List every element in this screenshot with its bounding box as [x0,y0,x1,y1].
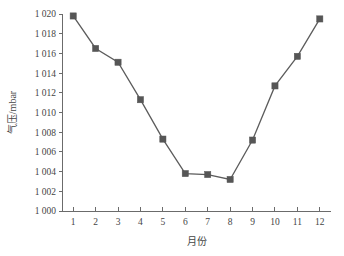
x-axis-tick-label: 12 [315,217,325,227]
x-axis-tick-label: 6 [183,217,188,227]
data-point-marker [160,136,166,142]
y-axis-tick-label: 1 014 [35,69,57,79]
y-axis-tick-label: 1 002 [35,187,57,197]
pressure-by-month-chart: 1 0001 0021 0041 0061 0081 0101 0121 014… [0,0,344,256]
data-point-marker [272,83,278,89]
data-point-marker [227,176,233,182]
chart-canvas: 1 0001 0021 0041 0061 0081 0101 0121 014… [0,0,344,256]
data-point-marker [115,59,121,65]
y-axis-tick-label: 1 010 [35,108,57,118]
y-axis-tick-label: 1 020 [35,9,57,19]
data-point-marker [137,97,143,103]
data-point-marker [317,16,323,22]
axis-line-group [62,14,331,211]
x-axis-tick-label: 8 [228,217,233,227]
data-point-marker [182,170,188,176]
y-axis-tick-label: 1 006 [35,147,57,157]
x-axis-tick-label: 11 [293,217,302,227]
y-axis-tick-label: 1 016 [35,49,57,59]
x-axis-tick-label: 2 [93,217,98,227]
x-axis-tick-label: 5 [161,217,166,227]
x-axis-title: 月份 [187,236,207,247]
x-axis-tick-label: 1 [71,217,76,227]
data-point-marker [249,137,255,143]
data-point-marker [70,13,76,19]
data-point-marker [294,53,300,59]
y-axis-tick-label: 1 012 [35,88,57,98]
pressure-line-series [73,16,320,180]
pressure-data-point-group [70,13,323,183]
y-axis-tick-label-group: 1 0001 0021 0041 0061 0081 0101 0121 014… [35,9,57,216]
x-axis-tick-label: 3 [116,217,121,227]
y-axis-tick-label: 1 000 [35,206,57,216]
axis-tick-mark-group [59,14,320,211]
x-axis-tick-label: 7 [205,217,210,227]
x-axis-tick-label: 9 [250,217,255,227]
y-axis-tick-label: 1 004 [35,167,57,177]
y-axis-tick-label: 1 018 [35,29,57,39]
data-point-marker [205,171,211,177]
x-axis-tick-label: 4 [138,217,143,227]
data-point-marker [93,45,99,51]
y-axis-tick-label: 1 008 [35,128,57,138]
y-axis-title: 气压/mbar [6,90,18,134]
x-axis-tick-label-group: 123456789101112 [71,217,325,227]
x-axis-tick-label: 10 [270,217,280,227]
